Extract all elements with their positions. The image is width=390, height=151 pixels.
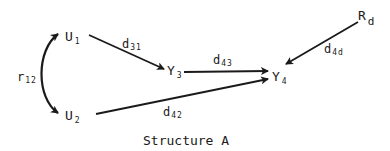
node-y3-base: Y <box>167 63 175 78</box>
node-u2: U2 <box>65 109 80 125</box>
label-d31-base: d <box>122 37 129 51</box>
node-y4-sub: 4 <box>282 77 287 86</box>
node-u1-sub: 1 <box>75 37 80 46</box>
node-y4: Y4 <box>272 70 287 86</box>
node-rd: Rd <box>358 9 374 27</box>
edge-rd-y4 <box>286 22 358 64</box>
node-u2-base: U <box>65 108 73 123</box>
label-d42-sub: 42 <box>171 111 183 120</box>
node-y4-base: Y <box>272 69 280 84</box>
node-y3: Y3 <box>167 64 182 80</box>
diagram-caption: Structure A <box>143 134 229 147</box>
label-d31-sub: 31 <box>130 43 142 52</box>
label-r12: r12 <box>17 71 37 85</box>
label-d42-base: d <box>163 105 170 119</box>
label-d31: d31 <box>122 38 142 52</box>
path-diagram-canvas <box>0 0 390 151</box>
node-y3-sub: 3 <box>177 71 182 80</box>
node-u1: U1 <box>65 30 80 46</box>
edge-y3-y4 <box>184 71 268 72</box>
node-rd-sub: d <box>368 15 375 28</box>
node-rd-base: R <box>358 8 366 23</box>
label-r12-sub: 12 <box>25 76 37 85</box>
label-d4d-sub: 4d <box>332 48 344 57</box>
node-u2-sub: 2 <box>75 116 80 125</box>
label-d42: d42 <box>163 106 183 120</box>
node-u1-base: U <box>65 29 73 44</box>
label-r12-base: r <box>17 70 24 84</box>
label-d4d: d4d <box>324 43 344 57</box>
edge-u1-u2-correlation <box>42 34 59 113</box>
label-d43-base: d <box>213 53 220 67</box>
label-d43: d43 <box>213 54 233 68</box>
label-d43-sub: 43 <box>221 59 233 68</box>
label-d4d-base: d <box>324 42 331 56</box>
